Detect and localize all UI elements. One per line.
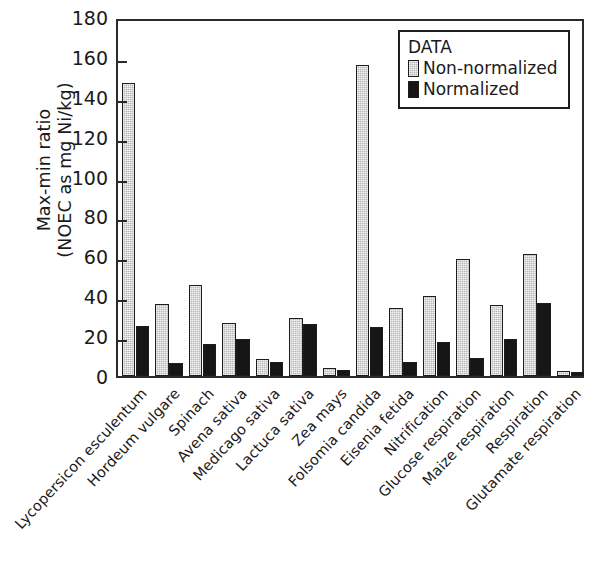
- y-axis-tick-label: 40: [64, 288, 108, 307]
- bar-non-normalized: [523, 254, 537, 376]
- y-axis-tick-label: 160: [64, 49, 108, 68]
- bar-non-normalized: [557, 371, 571, 376]
- bar-normalized: [370, 327, 384, 376]
- x-axis-tick-label: Zea mays: [290, 386, 350, 449]
- bar-non-normalized: [155, 304, 169, 376]
- bar-normalized: [136, 326, 150, 376]
- y-axis-tick-labels: 020406080100120140160180: [56, 0, 108, 573]
- legend-label-normalized: Normalized: [423, 79, 519, 100]
- bar-non-normalized: [256, 359, 270, 376]
- bar-normalized: [537, 303, 551, 376]
- bar-normalized: [236, 339, 250, 376]
- bar-non-normalized: [189, 285, 203, 376]
- bar-normalized: [337, 370, 351, 376]
- y-axis-tick-label: 0: [64, 368, 108, 387]
- y-axis-tick-label: 140: [64, 89, 108, 108]
- bar-non-normalized: [323, 368, 337, 376]
- bar-chart-figure: Max-min ratio (NOEC as mg Ni/kg) 0204060…: [0, 0, 592, 573]
- y-axis-tick-mark: [118, 61, 127, 63]
- bar-non-normalized: [423, 296, 437, 376]
- legend: DATA Non-normalized Normalized: [398, 30, 570, 109]
- bar-non-normalized: [122, 83, 136, 376]
- bar-non-normalized: [356, 65, 370, 376]
- legend-swatch-normalized: [408, 81, 419, 98]
- y-axis-tick-mark: [118, 101, 127, 103]
- y-axis-tick-mark: [118, 181, 127, 183]
- y-axis-tick-label: 80: [64, 208, 108, 227]
- y-axis-tick-label: 180: [64, 9, 108, 28]
- legend-entry-non-normalized: Non-normalized: [408, 58, 561, 79]
- bar-normalized: [504, 339, 518, 376]
- x-axis-tick-label: Folsomia candida: [286, 386, 384, 490]
- y-axis-title-line-1: Max-min ratio: [34, 109, 55, 232]
- bar-normalized: [470, 358, 484, 376]
- x-axis-tick-label: Lactuca sativa: [233, 386, 316, 474]
- bar-normalized: [437, 342, 451, 376]
- bar-normalized: [403, 362, 417, 376]
- x-axis-tick-label: Spinach: [166, 386, 217, 439]
- bar-normalized: [303, 324, 317, 376]
- y-axis-tick-mark: [118, 300, 127, 302]
- x-axis-tick-label: Avena sativa: [175, 386, 250, 465]
- x-axis-tick-label: Glucose respiration: [376, 386, 484, 500]
- x-axis-tick-label: Nitrification: [381, 386, 450, 459]
- legend-swatch-non-normalized: [408, 60, 419, 77]
- y-axis-tick-mark: [118, 220, 127, 222]
- bar-normalized: [203, 344, 217, 376]
- bar-non-normalized: [289, 318, 303, 376]
- x-axis-tick-label: Medicago sativa: [191, 386, 283, 484]
- legend-title: DATA: [408, 37, 561, 57]
- y-axis-tick-label: 120: [64, 129, 108, 148]
- y-axis-tick-label: 100: [64, 169, 108, 188]
- bar-non-normalized: [456, 259, 470, 376]
- x-axis-tick-label: Respiration: [483, 386, 550, 457]
- bar-non-normalized: [222, 323, 236, 376]
- y-axis-tick-label: 60: [64, 248, 108, 267]
- legend-label-non-normalized: Non-normalized: [423, 58, 558, 79]
- y-axis-tick-label: 20: [64, 328, 108, 347]
- bar-non-normalized: [490, 305, 504, 376]
- bar-non-normalized: [389, 308, 403, 376]
- y-axis-tick-mark: [118, 260, 127, 262]
- legend-entry-normalized: Normalized: [408, 79, 561, 100]
- x-axis-tick-label: Maize respiration: [420, 386, 517, 489]
- bar-normalized: [169, 363, 183, 376]
- bar-normalized: [571, 372, 585, 376]
- x-axis-tick-label: Eisenia fetida: [338, 386, 417, 469]
- bar-normalized: [270, 362, 284, 376]
- y-axis-tick-mark: [118, 340, 127, 342]
- x-axis-tick-label: Glutamate respiration: [463, 386, 584, 514]
- y-axis-tick-mark: [118, 141, 127, 143]
